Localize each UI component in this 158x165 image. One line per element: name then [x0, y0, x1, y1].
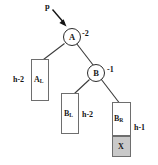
node-b-balance-factor: -1 [107, 65, 114, 74]
subtree-label-br: BR [114, 114, 123, 123]
subtree-label-bl-sub: L [69, 112, 73, 118]
subtree-label-bl: BL [64, 109, 73, 118]
subtree-label-x: X [118, 142, 124, 151]
diagram-canvas: p A -2 B -1 AL h-2 BL h-2 BR h-1 X [0, 0, 158, 165]
height-label-bl: h-2 [82, 110, 93, 119]
subtree-label-al: AL [34, 75, 44, 84]
node-a-balance-factor: -2 [82, 29, 89, 38]
edge-b-to-bl [75, 80, 90, 94]
edge-a-to-b [77, 44, 94, 66]
subtree-label-al-sub: L [40, 78, 44, 84]
node-b[interactable]: B [87, 64, 105, 82]
subtree-label-br-sub: R [119, 117, 123, 123]
height-label-al: h-2 [13, 75, 24, 84]
pointer-arrow [53, 10, 67, 27]
height-label-br: h-1 [134, 123, 145, 132]
pointer-label-p: p [45, 1, 50, 11]
edge-b-to-br [101, 79, 119, 103]
node-a[interactable]: A [63, 28, 81, 46]
edge-a-to-al [44, 44, 65, 60]
